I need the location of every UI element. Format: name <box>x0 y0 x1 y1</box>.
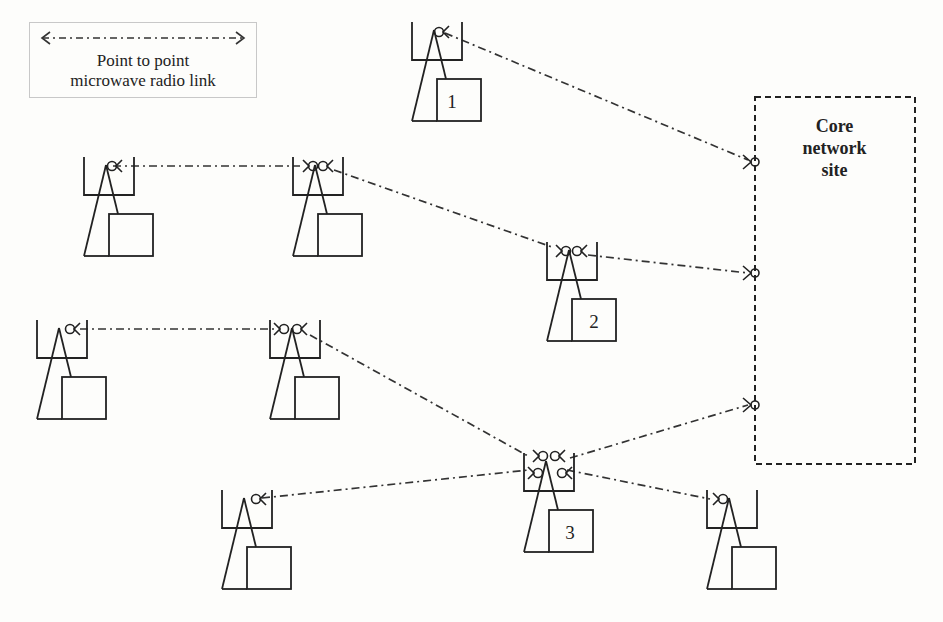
link-d-site3 <box>310 335 528 456</box>
site-c <box>37 320 106 419</box>
site-d <box>270 320 339 419</box>
site-f <box>707 490 776 589</box>
diagram-canvas: 1 2 3 <box>0 0 943 622</box>
core-title-line3: site <box>757 159 912 181</box>
core-title-line2: network <box>757 137 912 159</box>
site-2 <box>547 242 616 341</box>
core-network-site-title: Core network site <box>757 115 912 181</box>
core-title-line1: Core <box>757 115 912 137</box>
site-3 <box>524 453 593 552</box>
site-number-3: 3 <box>565 522 575 543</box>
site-number-1: 1 <box>447 91 457 112</box>
link-e-site3 <box>262 470 529 498</box>
link-site2-core <box>588 255 748 273</box>
site-a <box>84 157 153 256</box>
link-site1-core <box>445 33 748 160</box>
link-site3-f <box>567 470 710 499</box>
site-number-2: 2 <box>589 311 599 332</box>
core-antenna-endpoints <box>743 155 759 412</box>
tower-antennas <box>66 26 728 505</box>
link-b-site2 <box>334 170 552 247</box>
radio-links <box>80 33 748 499</box>
link-site3-core <box>570 405 748 458</box>
site-e <box>222 490 291 589</box>
microwave-network-diagram: Point to point microwave radio link <box>0 0 943 622</box>
